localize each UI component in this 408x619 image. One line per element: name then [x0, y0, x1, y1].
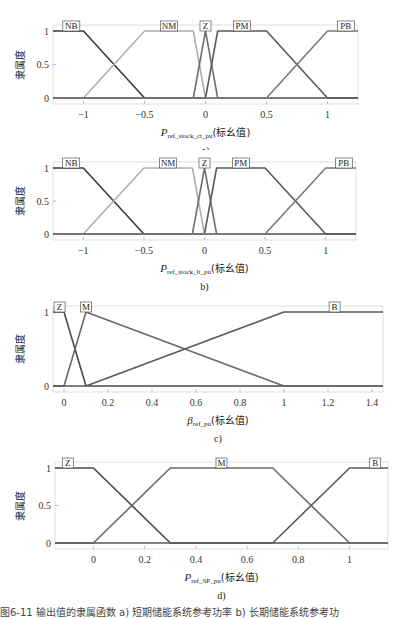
x-tick-label: −0.5	[135, 109, 153, 120]
y-tick-label: 1	[46, 463, 51, 474]
mf-curve-m	[53, 312, 383, 386]
y-axis-label: 隶属度	[14, 334, 26, 364]
y-tick-label: 0.5	[39, 500, 52, 511]
y-tick-label: 1	[44, 26, 49, 37]
x-tick-label: 0.2	[138, 554, 151, 565]
mf-label-pm: PM	[232, 158, 249, 168]
mf-label-z: Z	[199, 158, 210, 168]
y-axis-label: 隶属度	[14, 186, 26, 216]
x-tick-label: 0.8	[292, 554, 305, 565]
y-tick-label: 0.5	[37, 196, 50, 207]
y-tick-label: 0	[44, 381, 49, 392]
svg-text:M: M	[217, 458, 225, 468]
y-tick-label: 0.5	[37, 59, 50, 70]
mf-curve-z	[53, 31, 358, 98]
mf-curve-nb	[53, 31, 358, 98]
mf-curve-pm	[53, 168, 356, 234]
x-axis-label: Pref_SP_pu(标幺值)	[183, 571, 258, 585]
svg-text:PM: PM	[234, 158, 247, 168]
subfigure-label: c)	[214, 433, 222, 445]
x-axis-label: Pref_stock_ct_pu(标幺值)	[160, 126, 251, 140]
svg-text:B: B	[372, 458, 378, 468]
mf-curve-nm	[53, 168, 356, 234]
y-axis-label: 隶属度	[14, 50, 26, 80]
x-axis-label: βref_pu(标幺值)	[186, 414, 249, 428]
chart-c: 0100.20.40.60.811.21.4ZMB隶属度βref_pu(标幺值)…	[0, 300, 408, 450]
x-tick-label: 0.8	[234, 397, 247, 408]
x-tick-label: 0	[202, 245, 207, 256]
mf-curve-pb	[53, 31, 358, 98]
x-tick-label: 0.4	[190, 554, 203, 565]
svg-text:B: B	[332, 302, 338, 312]
x-tick-label: 0.2	[102, 397, 115, 408]
svg-text:PB: PB	[338, 158, 349, 168]
mf-label-nb: NB	[63, 21, 80, 31]
svg-text:PM: PM	[236, 21, 249, 31]
x-tick-label: 0.6	[190, 397, 203, 408]
subfigure-label: d)	[217, 590, 225, 602]
svg-text:Z: Z	[202, 158, 208, 168]
mf-curve-nb	[53, 168, 356, 234]
x-tick-label: −1	[78, 245, 89, 256]
mf-curve-b	[53, 312, 383, 386]
mf-label-pb: PB	[335, 158, 352, 168]
x-tick-label: 1	[282, 397, 287, 408]
mf-label-m: M	[216, 458, 227, 468]
x-axis-label: Pref_stock_lt_pu(标幺值)	[159, 262, 249, 276]
x-tick-label: −0.5	[135, 245, 153, 256]
mf-curve-z	[53, 312, 383, 386]
chart-a: 00.51−1−0.500.51NBNMZPMPB隶属度Pref_stock_c…	[0, 0, 408, 150]
plot-frame	[53, 162, 356, 240]
mf-label-pm: PM	[234, 21, 251, 31]
svg-text:Z: Z	[57, 302, 63, 312]
mf-label-nb: NB	[63, 158, 80, 168]
svg-text:PB: PB	[340, 21, 351, 31]
chart-d: 00.5100.20.40.60.81ZMB隶属度Pref_SP_pu(标幺值)…	[0, 450, 408, 602]
mf-label-m: M	[81, 302, 92, 312]
svg-text:NB: NB	[65, 158, 78, 168]
plot-frame	[55, 462, 388, 549]
y-axis-label: 隶属度	[14, 491, 26, 521]
svg-text:NB: NB	[65, 21, 78, 31]
mf-curve-pm	[53, 31, 358, 98]
mf-label-z: Z	[62, 458, 73, 468]
x-tick-label: 1	[323, 245, 328, 256]
svg-text:Z: Z	[203, 21, 209, 31]
mf-label-nm: NM	[160, 158, 177, 168]
svg-text:Z: Z	[65, 458, 71, 468]
mf-label-pb: PB	[337, 21, 354, 31]
x-tick-label: 0	[62, 397, 67, 408]
figure-caption: 图6-11 输出值的隶属函数 a) 短期储能系统参考功率 b) 长期储能系统参考…	[0, 604, 408, 619]
x-tick-label: 0.6	[241, 554, 254, 565]
mf-label-z: Z	[200, 21, 211, 31]
x-tick-label: 1	[325, 109, 330, 120]
y-tick-label: 1	[44, 307, 49, 318]
y-tick-label: 0	[44, 229, 49, 240]
y-tick-label: 0	[46, 538, 51, 549]
x-tick-label: 1	[347, 554, 352, 565]
mf-curve-z	[53, 168, 356, 234]
mf-curve-nm	[53, 31, 358, 98]
svg-text:NM: NM	[161, 158, 176, 168]
plot-frame	[53, 25, 358, 104]
mf-label-nm: NM	[160, 21, 177, 31]
x-tick-label: 0	[203, 109, 208, 120]
x-tick-label: 0.5	[260, 109, 273, 120]
mf-label-b: B	[329, 302, 340, 312]
mf-curve-pb	[53, 168, 356, 234]
x-tick-label: −1	[78, 109, 89, 120]
x-tick-label: 0.4	[146, 397, 159, 408]
x-tick-label: 1.4	[366, 397, 379, 408]
x-tick-label: 1.2	[322, 397, 335, 408]
mf-label-b: B	[370, 458, 381, 468]
x-tick-label: 0	[91, 554, 96, 565]
y-tick-label: 1	[44, 163, 49, 174]
y-tick-label: 0	[44, 93, 49, 104]
mf-label-z: Z	[54, 302, 65, 312]
x-tick-label: 0.5	[259, 245, 272, 256]
subfigure-label: b)	[200, 281, 208, 293]
svg-text:NM: NM	[162, 21, 177, 31]
chart-b: 00.51−1−0.500.51NBNMZPMPB隶属度Pref_stock_l…	[0, 150, 408, 300]
svg-text:M: M	[82, 302, 90, 312]
